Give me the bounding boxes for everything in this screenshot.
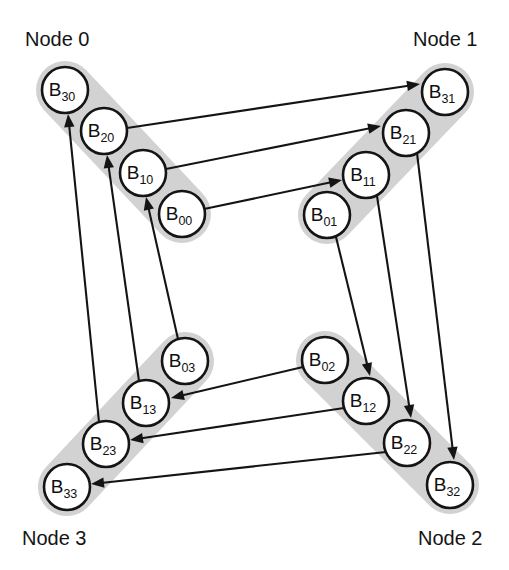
- block-B32[interactable]: B32: [427, 462, 473, 508]
- block-B30[interactable]: B30: [42, 67, 88, 113]
- node-band-node1: [327, 92, 445, 215]
- block-B00[interactable]: B00: [159, 191, 205, 237]
- edge-line-e-B23-B30: [69, 124, 99, 422]
- node-title-node2: Node 2: [418, 527, 483, 549]
- node-title-node0: Node 0: [25, 28, 90, 50]
- blocks-layer: B30B20B10B00B31B21B11B01B02B12B22B32B03B…: [42, 67, 473, 510]
- block-B23[interactable]: B23: [83, 421, 129, 467]
- block-B02[interactable]: B02: [302, 337, 348, 383]
- block-B31[interactable]: B31: [422, 69, 468, 115]
- block-B13[interactable]: B13: [123, 380, 169, 426]
- edge-B20-to-B31: [127, 81, 420, 128]
- node-title-node3: Node 3: [22, 527, 87, 549]
- diagram-canvas: B30B20B10B00B31B21B11B01B02B12B22B32B03B…: [0, 0, 509, 570]
- edge-B21-to-B32: [417, 153, 458, 460]
- edge-line-e-B20-B31: [127, 85, 410, 128]
- block-B01[interactable]: B01: [304, 192, 350, 238]
- node-title-node1: Node 1: [413, 28, 478, 50]
- node-band-node0: [65, 90, 182, 214]
- block-B12[interactable]: B12: [343, 378, 389, 424]
- edge-B22-to-B33: [91, 452, 386, 488]
- node-band-node2: [325, 360, 450, 485]
- block-B11[interactable]: B11: [343, 152, 389, 198]
- edge-line-e-B21-B32: [417, 153, 453, 450]
- edge-line-e-B22-B33: [101, 452, 386, 483]
- block-B33[interactable]: B33: [44, 464, 90, 510]
- block-B10[interactable]: B10: [120, 150, 166, 196]
- block-B22[interactable]: B22: [384, 420, 430, 466]
- node-band-node3: [67, 361, 185, 487]
- block-B20[interactable]: B20: [81, 108, 127, 154]
- ring-network-diagram: B30B20B10B00B31B21B11B01B02B12B22B32B03B…: [0, 0, 509, 570]
- block-B21[interactable]: B21: [383, 110, 429, 156]
- block-B03[interactable]: B03: [162, 338, 208, 384]
